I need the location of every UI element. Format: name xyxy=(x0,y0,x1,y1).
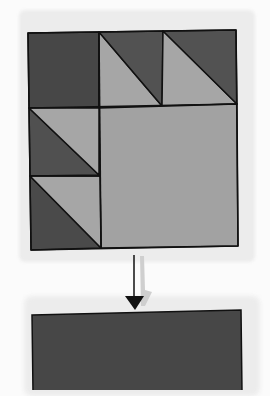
result-dark-square xyxy=(32,310,242,390)
cell-large-light-square xyxy=(99,104,238,248)
quilt-block xyxy=(28,30,238,250)
cell-dark-square xyxy=(28,32,99,108)
